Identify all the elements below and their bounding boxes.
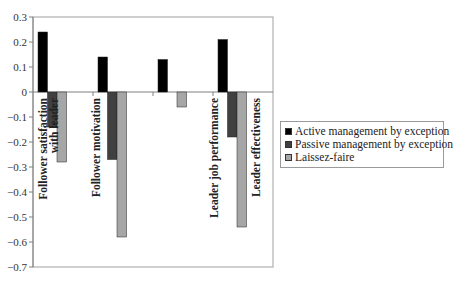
category-label: with leader [48, 98, 60, 153]
legend-label: Active management by exception [295, 125, 449, 138]
legend: Active management by exception Passive m… [280, 121, 444, 168]
legend-swatch-passive [285, 141, 292, 148]
legend-item-active: Active management by exception [285, 125, 439, 138]
y-tick-label: −0.7 [7, 261, 27, 273]
y-tick-label: −0.6 [7, 236, 27, 248]
legend-label: Laissez-faire [295, 151, 354, 164]
y-tick-label: −0.3 [7, 161, 27, 173]
y-tick-label: −0.4 [7, 186, 27, 198]
category-label: Follower motivation [90, 97, 102, 197]
y-tick-label: 0 [22, 86, 28, 98]
legend-swatch-active [285, 128, 292, 135]
legend-swatch-laissez-faire [285, 154, 292, 161]
bar [117, 92, 127, 237]
bar [228, 92, 238, 137]
category-label: Leader effectiveness [250, 97, 262, 197]
legend-item-laissez-faire: Laissez-faire [285, 151, 439, 164]
category-label: Leader job performance [208, 98, 221, 218]
bar [98, 57, 108, 92]
legend-item-passive: Passive management by exception [285, 138, 439, 151]
bar [108, 92, 118, 160]
bar [158, 60, 168, 93]
y-tick-label: −0.2 [7, 136, 27, 148]
y-tick-label: 0.1 [13, 61, 27, 73]
y-tick-label: −0.5 [7, 211, 27, 223]
bar [177, 92, 187, 107]
legend-label: Passive management by exception [295, 138, 453, 151]
y-tick-label: 0.3 [13, 11, 27, 23]
bar [237, 92, 247, 227]
y-tick-label: −0.1 [7, 111, 27, 123]
bar [38, 32, 48, 92]
y-tick-label: 0.2 [13, 36, 27, 48]
bar [218, 40, 228, 93]
